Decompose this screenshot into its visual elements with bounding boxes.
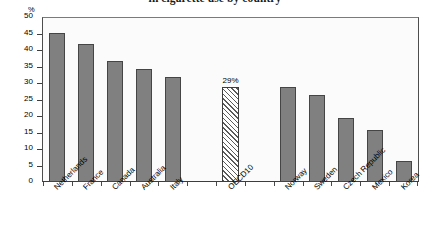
bar-chart-figure: in cigarette use by country % 5045403530… (0, 0, 430, 247)
y-axis-tick-mark (37, 83, 42, 84)
x-axis-labels: NetherlandsFranceCanadaAustraliaItalyOEC… (43, 186, 418, 247)
y-axis-tick-mark (37, 166, 42, 167)
y-axis-tick-mark (37, 50, 42, 51)
bar-italy[interactable] (165, 77, 181, 182)
bar-slot (309, 18, 325, 182)
bar-norway[interactable] (280, 87, 296, 182)
y-axis-tick-label: 25 (24, 95, 33, 103)
bar-slot (396, 18, 412, 182)
bar-oecd10[interactable] (222, 87, 238, 182)
y-axis-tick-label: 30 (24, 78, 33, 86)
y-axis-tick-label: 15 (24, 128, 33, 136)
y-axis-tick-label: 35 (24, 62, 33, 70)
bar-slot (49, 18, 65, 182)
y-axis-tick-label: 45 (24, 29, 33, 37)
bar-slot (136, 18, 152, 182)
y-axis-tick-mark (37, 149, 42, 150)
bar-netherlands[interactable] (49, 33, 65, 182)
y-axis-tick-label: 50 (24, 12, 33, 20)
bar-slot: 29% (222, 18, 238, 182)
bar-slot (165, 18, 181, 182)
bar-slot (338, 18, 354, 182)
y-axis-tick-label: 0 (29, 177, 33, 185)
bar-australia[interactable] (136, 69, 152, 182)
y-axis-tick-label: 40 (24, 45, 33, 53)
y-axis-tick-label: 20 (24, 111, 33, 119)
y-axis-tick-mark (37, 116, 42, 117)
y-axis-tick-label: 5 (29, 161, 33, 169)
y-axis-tick-mark (37, 133, 42, 134)
y-axis-tick-mark (37, 34, 42, 35)
y-axis-tick-mark (37, 100, 42, 101)
bar-canada[interactable] (107, 61, 123, 182)
bars-layer: 29% (43, 18, 418, 182)
bar-value-label: 29% (222, 77, 238, 85)
bar-slot (107, 18, 123, 182)
bar-slot (280, 18, 296, 182)
chart-title: in cigarette use by country (0, 0, 430, 4)
bar-czech-republic[interactable] (338, 118, 354, 182)
y-axis-tick-mark (37, 67, 42, 68)
y-axis-tick-label: 10 (24, 144, 33, 152)
bar-sweden[interactable] (309, 95, 325, 182)
